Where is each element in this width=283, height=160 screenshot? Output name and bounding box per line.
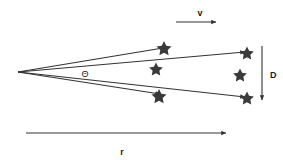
separation-label: D [270, 70, 277, 80]
velocity-label: v [197, 8, 202, 18]
angle-label: Θ [81, 69, 88, 79]
beam-diagram: v D r Θ [0, 0, 283, 160]
canvas-background [0, 0, 283, 160]
distance-label: r [120, 147, 124, 157]
figure-container: v D r Θ [0, 0, 283, 160]
